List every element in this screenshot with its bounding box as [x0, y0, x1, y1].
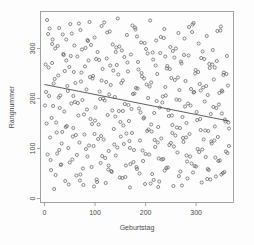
y-tick-label: 300 [29, 43, 36, 55]
x-tick-label: 100 [89, 209, 101, 216]
scatter-plot-figure: 0100200300 0100200300 Geburtstag Rangnum… [0, 0, 254, 245]
y-tick-label: 100 [29, 143, 36, 155]
y-axis-title: Rangnummer [8, 85, 16, 128]
y-tick-label: 0 [29, 196, 36, 200]
x-tick-label: 200 [140, 209, 152, 216]
x-tick-label: 300 [190, 209, 202, 216]
x-axis-title: Geburtstag [120, 224, 155, 232]
y-tick-label: 200 [29, 93, 36, 105]
x-tick-label: 0 [43, 209, 47, 216]
plot-canvas: 0100200300 0100200300 Geburtstag Rangnum… [0, 0, 254, 245]
